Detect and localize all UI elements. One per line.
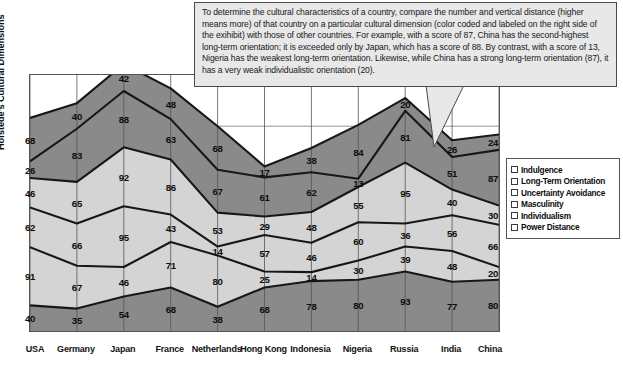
callout-pointer <box>420 85 540 155</box>
legend-item-individualism[interactable]: Individualism <box>511 211 616 221</box>
data-label: 20 <box>488 268 498 279</box>
legend-label: Power Distance <box>521 222 579 232</box>
data-label: 68 <box>166 304 176 315</box>
data-label: 36 <box>400 230 410 241</box>
data-label: 84 <box>353 146 363 157</box>
data-label: 46 <box>25 187 35 198</box>
data-label: 87 <box>488 172 498 183</box>
data-label: 56 <box>447 228 457 239</box>
data-label: 88 <box>119 114 129 125</box>
data-label: 67 <box>72 282 82 293</box>
data-label: 43 <box>166 223 176 234</box>
data-label: 48 <box>166 98 176 109</box>
legend-swatch-icon <box>511 224 518 231</box>
data-label: 95 <box>119 231 129 242</box>
legend-swatch-icon <box>511 201 518 208</box>
data-label: 29 <box>259 220 269 231</box>
data-label: 40 <box>72 110 82 121</box>
data-label: 66 <box>72 239 82 250</box>
data-label: 55 <box>353 199 363 210</box>
legend-item-masculinity[interactable]: Masculinity <box>511 199 616 209</box>
data-label: 30 <box>353 265 363 276</box>
chart-legend: Indulgence Long-Term Orientation Uncerta… <box>506 158 620 239</box>
data-label: 20 <box>400 99 410 110</box>
data-label: 14 <box>213 246 223 257</box>
data-label: 35 <box>72 314 82 325</box>
data-label: 17 <box>259 166 269 177</box>
x-axis-tick-label: Hong Kong <box>240 344 287 354</box>
data-label: 38 <box>213 313 223 324</box>
legend-label: Individualism <box>521 211 571 221</box>
data-label: 61 <box>259 191 269 202</box>
chart-page: To determine the cultural characteristic… <box>0 0 623 367</box>
legend-label: Indulgence <box>521 165 562 175</box>
legend-item-uncertainty-avoidance[interactable]: Uncertainty Avoidance <box>511 188 616 198</box>
legend-swatch-icon <box>511 166 518 173</box>
data-label: 68 <box>25 134 35 145</box>
data-label: 93 <box>400 296 410 307</box>
data-label: 25 <box>259 274 269 285</box>
data-label: 65 <box>72 197 82 208</box>
data-label: 78 <box>306 301 316 312</box>
data-label: 80 <box>488 300 498 311</box>
data-label: 66 <box>488 240 498 251</box>
annotation-text: To determine the cultural characteristic… <box>202 7 609 77</box>
data-label: 26 <box>25 164 35 175</box>
data-label: 81 <box>400 131 410 142</box>
data-label: 68 <box>213 142 223 153</box>
data-label: 13 <box>353 177 363 188</box>
data-label: 46 <box>306 252 316 263</box>
legend-swatch-icon <box>511 178 518 185</box>
x-axis-tick-label: Indonesia <box>290 344 330 354</box>
data-label: 71 <box>166 259 176 270</box>
x-axis: USAGermanyJapanFranceNetherlandsHong Kon… <box>29 332 500 366</box>
x-axis-tick-label: Russia <box>390 344 418 354</box>
data-label: 62 <box>306 187 316 198</box>
legend-swatch-icon <box>511 212 518 219</box>
data-label: 68 <box>259 304 269 315</box>
data-label: 40 <box>25 313 35 324</box>
x-axis-tick-label: Netherlands <box>192 344 242 354</box>
x-axis-tick-label: India <box>441 344 461 354</box>
legend-label: Masculinity <box>521 199 563 209</box>
annotation-callout: To determine the cultural characteristic… <box>194 2 617 87</box>
data-label: 40 <box>447 197 457 208</box>
data-label: 54 <box>119 308 129 319</box>
data-label: 60 <box>353 236 363 247</box>
data-label: 14 <box>306 271 316 282</box>
data-label: 92 <box>119 171 129 182</box>
x-axis-tick-label: Germany <box>57 344 95 354</box>
data-label: 77 <box>447 301 457 312</box>
legend-item-power-distance[interactable]: Power Distance <box>511 222 616 232</box>
data-label: 53 <box>213 224 223 235</box>
x-axis-tick-label: China <box>478 344 502 354</box>
data-label: 67 <box>213 186 223 197</box>
data-label: 95 <box>400 188 410 199</box>
data-label: 39 <box>400 254 410 265</box>
data-label: 57 <box>259 248 269 259</box>
legend-label: Uncertainty Avoidance <box>521 188 605 198</box>
data-label: 38 <box>306 155 316 166</box>
data-label: 86 <box>166 182 176 193</box>
data-label: 63 <box>166 134 176 145</box>
legend-item-indulgence[interactable]: Indulgence <box>511 165 616 175</box>
x-axis-tick-label: USA <box>26 344 44 354</box>
x-axis-tick-label: Nigeria <box>343 344 372 354</box>
data-label: 48 <box>306 222 316 233</box>
data-label: 42 <box>119 72 129 83</box>
data-label: 62 <box>25 222 35 233</box>
data-label: 48 <box>447 261 457 272</box>
data-label: 80 <box>213 276 223 287</box>
data-label: 46 <box>119 276 129 287</box>
data-label: 91 <box>25 271 35 282</box>
legend-label: Long-Term Orientation <box>521 176 605 186</box>
legend-swatch-icon <box>511 189 518 196</box>
data-label: 51 <box>447 168 457 179</box>
x-axis-tick-label: Japan <box>110 344 135 354</box>
x-axis-tick-label: France <box>156 344 184 354</box>
y-axis-label: Hofstede's Cultural Dimensions <box>0 0 6 150</box>
data-label: 83 <box>72 150 82 161</box>
data-label: 30 <box>488 210 498 221</box>
data-label: 80 <box>353 300 363 311</box>
legend-item-long-term-orientation[interactable]: Long-Term Orientation <box>511 176 616 186</box>
